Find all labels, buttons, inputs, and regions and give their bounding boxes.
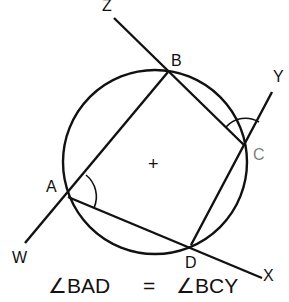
equation-left: ∠BAD [48, 274, 110, 297]
geometry-diagram: + Z B Y C A W D X ∠BAD = ∠BCY [0, 0, 289, 302]
line-WAB [25, 72, 168, 243]
label-Y: Y [273, 68, 284, 85]
label-A: A [46, 178, 57, 195]
center-mark: + [148, 154, 159, 174]
label-C: C [253, 146, 265, 163]
label-W: W [12, 249, 28, 266]
label-D: D [185, 254, 197, 271]
equation-equals: = [143, 274, 155, 297]
equation-right: ∠BCY [176, 274, 238, 297]
line-DCY [191, 92, 272, 245]
label-X: X [263, 267, 274, 284]
angle-arc-BAD [86, 175, 96, 208]
label-Z: Z [102, 0, 112, 14]
label-B: B [171, 52, 182, 69]
line-ZBC [114, 18, 244, 145]
